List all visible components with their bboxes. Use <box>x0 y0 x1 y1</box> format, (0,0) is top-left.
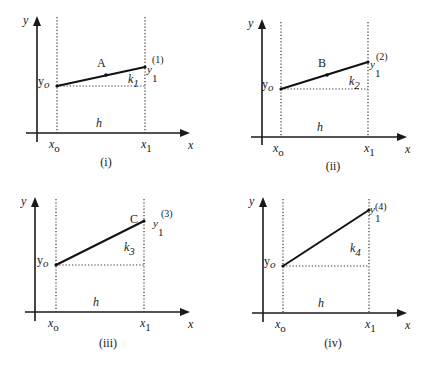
panel-caption: (iv) <box>324 336 341 350</box>
panel-iv: yxxox1yohk4y1(4)(iv) <box>248 194 411 350</box>
y-axis-label: y <box>22 13 29 27</box>
panel-i: yxxox1yohk1y1(1)A(i) <box>22 13 194 169</box>
x1-label: x1 <box>139 316 151 333</box>
figure-canvas: yxxox1yohk1y1(1)A(i)yxxox1yohk2y1(2)B(ii… <box>0 0 441 373</box>
panel-caption: (iii) <box>99 336 117 350</box>
x-axis-arrow-icon <box>397 133 407 141</box>
y-axis-arrow-icon <box>31 197 39 207</box>
point-label: A <box>97 56 106 70</box>
y0-label: yo <box>37 253 49 269</box>
end-point <box>142 219 145 222</box>
y1-subscript: 1 <box>375 67 381 79</box>
panel-iii: yxxox1yohk3y1(3)C(iii) <box>20 194 194 350</box>
x1-label: x1 <box>364 317 376 334</box>
x-axis-label: x <box>187 138 194 152</box>
runge-kutta-slope-figure: yxxox1yohk1y1(1)A(i)yxxox1yohk2y1(2)B(ii… <box>0 0 441 373</box>
y0-label: yo <box>264 254 276 270</box>
x0-label: xo <box>47 316 59 333</box>
y-axis-arrow-icon <box>259 197 267 207</box>
y1-superscript: (4) <box>375 201 387 213</box>
y-axis-label: y <box>247 16 254 30</box>
h-label: h <box>318 296 324 310</box>
start-point <box>54 263 57 266</box>
x0-label: xo <box>48 137 60 154</box>
h-label: h <box>96 116 102 130</box>
y1-subscript: 1 <box>158 226 164 238</box>
slope-label: k3 <box>124 240 135 257</box>
y1-superscript: (1) <box>152 54 164 66</box>
slope-segment <box>56 221 144 265</box>
point-label: C <box>130 212 138 226</box>
x-axis-label: x <box>404 318 411 332</box>
y1-subscript: 1 <box>375 212 381 224</box>
start-point <box>281 264 284 267</box>
start-point <box>279 87 282 90</box>
y0-label: yo <box>262 77 274 93</box>
midpoint-dot <box>325 73 329 77</box>
panel-ii: yxxox1yohk2y1(2)B(ii) <box>247 16 411 173</box>
y1-superscript: (3) <box>161 208 173 220</box>
panel-caption: (ii) <box>326 159 341 173</box>
x-axis-arrow-icon <box>180 308 190 316</box>
x-axis-arrow-icon <box>397 309 407 317</box>
slope-label: k4 <box>350 241 361 258</box>
x1-label: x1 <box>140 137 152 154</box>
h-label: h <box>93 295 99 309</box>
x0-label: xo <box>272 141 284 158</box>
y1-subscript: 1 <box>152 72 158 84</box>
x-axis-label: x <box>404 142 411 156</box>
y-axis-arrow-icon <box>258 19 266 29</box>
point-label: B <box>318 56 326 70</box>
x0-label: xo <box>274 317 286 334</box>
y-axis-label: y <box>20 194 27 208</box>
y1-superscript: (2) <box>376 51 388 63</box>
slope-label: k1 <box>128 72 139 89</box>
y-axis-label: y <box>248 194 255 208</box>
h-label: h <box>317 120 323 134</box>
x-axis-label: x <box>187 317 194 331</box>
midpoint-dot <box>104 73 108 77</box>
start-point <box>55 84 58 87</box>
slope-label: k2 <box>349 74 360 91</box>
y-axis-arrow-icon <box>33 16 41 26</box>
y0-label: yo <box>38 74 50 90</box>
panel-caption: (i) <box>100 155 111 169</box>
x-axis-arrow-icon <box>180 129 190 137</box>
x1-label: x1 <box>363 141 375 158</box>
